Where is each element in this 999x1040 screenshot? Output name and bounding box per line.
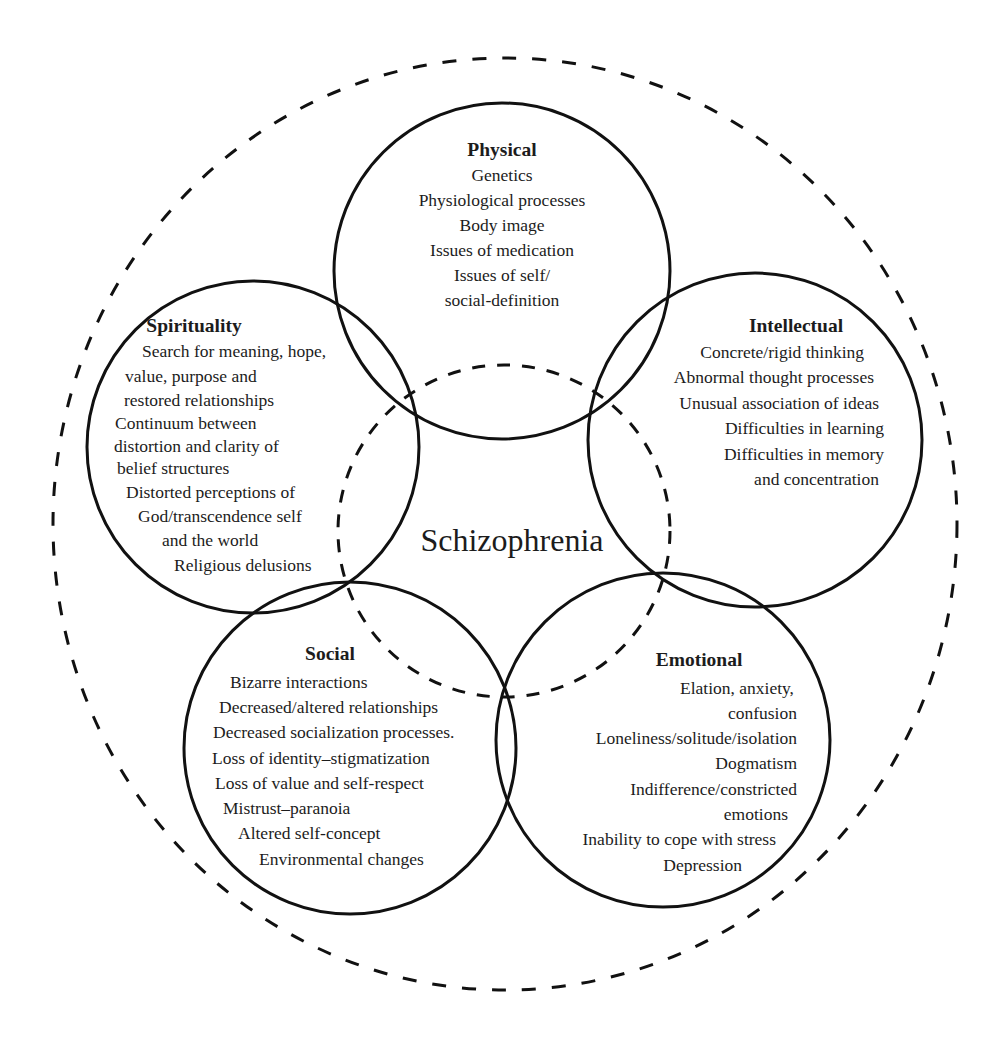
physical-item: Genetics — [471, 165, 532, 185]
intellectual-item: Difficulties in learning — [725, 418, 884, 438]
spirituality-item: belief structures — [117, 458, 229, 478]
intellectual-item: Difficulties in memory — [724, 444, 884, 464]
spirituality-item: Distorted perceptions of — [126, 482, 295, 502]
spirituality-item: restored relationships — [124, 390, 274, 410]
intellectual-title: Intellectual — [749, 316, 843, 336]
center-label: Schizophrenia — [420, 522, 603, 559]
emotional-item: Indifference/constricted — [630, 779, 797, 799]
social-item: Loss of value and self-respect — [215, 773, 424, 793]
social-title: Social — [305, 644, 355, 664]
emotional-item: emotions — [724, 804, 788, 824]
emotional-item: Dogmatism — [715, 753, 797, 773]
spirituality-item: Search for meaning, hope, — [142, 341, 326, 361]
social-item: Loss of identity–stigmatization — [212, 748, 430, 768]
intellectual-item: Concrete/rigid thinking — [700, 342, 864, 362]
social-item: Decreased/altered relationships — [219, 697, 438, 717]
physical-item: Issues of self/ — [454, 265, 550, 285]
social-item: Altered self-concept — [238, 823, 380, 843]
social-item: Mistrust–paranoia — [223, 798, 350, 818]
intellectual-item: Unusual association of ideas — [679, 393, 879, 413]
physical-item: Physiological processes — [419, 190, 586, 210]
emotional-item: Inability to cope with stress — [583, 829, 776, 849]
spirituality-item: and the world — [162, 530, 258, 550]
emotional-item: Elation, anxiety, — [680, 678, 794, 698]
physical-item: Body image — [459, 215, 544, 235]
social-item: Environmental changes — [259, 849, 424, 869]
physical-title: Physical — [467, 140, 536, 160]
spirituality-item: God/transcendence self — [138, 506, 302, 526]
physical-item: Issues of medication — [430, 240, 574, 260]
social-item: Bizarre interactions — [230, 672, 368, 692]
spirituality-item: Continuum between — [115, 413, 256, 433]
emotional-item: Depression — [663, 855, 742, 875]
spirituality-title: Spirituality — [146, 316, 241, 336]
emotional-title: Emotional — [656, 650, 743, 670]
spirituality-item: distortion and clarity of — [114, 436, 279, 456]
social-item: Decreased socialization processes. — [213, 722, 455, 742]
intellectual-item: and concentration — [754, 469, 879, 489]
spirituality-item: Religious delusions — [174, 555, 312, 575]
emotional-item: confusion — [728, 703, 797, 723]
physical-item: social-definition — [445, 290, 560, 310]
intellectual-item: Abnormal thought processes — [674, 367, 874, 387]
spirituality-item: value, purpose and — [125, 366, 257, 386]
emotional-item: Loneliness/solitude/isolation — [596, 728, 797, 748]
